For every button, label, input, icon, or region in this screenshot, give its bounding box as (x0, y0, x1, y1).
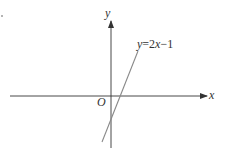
origin-label: O (97, 95, 106, 109)
x-axis-label: x (208, 88, 215, 102)
stray-dot (1, 15, 3, 17)
line-equation-label: y=2x−1 (136, 37, 173, 51)
coordinate-plane: y x O y=2x−1 (0, 0, 227, 155)
eq-const: 1 (167, 37, 173, 51)
line-y-equals-2x-minus-1 (102, 51, 138, 142)
y-axis-label: y (104, 6, 111, 20)
